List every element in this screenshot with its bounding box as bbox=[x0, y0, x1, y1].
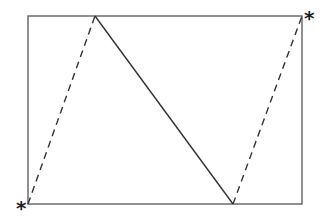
dashed-line-right bbox=[233, 16, 302, 204]
asterisk-marker-bottom-left: * bbox=[16, 198, 26, 218]
asterisk-marker-top-right: * bbox=[304, 8, 314, 28]
solid-diagonal-line bbox=[95, 16, 233, 204]
diagram-canvas bbox=[0, 0, 328, 222]
dashed-line-left bbox=[28, 16, 95, 204]
rectangle-frame bbox=[28, 16, 302, 204]
